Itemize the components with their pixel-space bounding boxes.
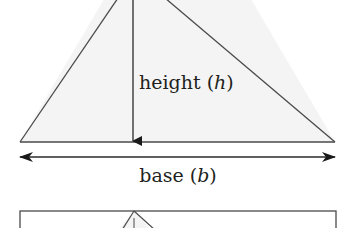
base-variable: b xyxy=(197,164,209,186)
height-variable: h xyxy=(214,71,226,93)
triangle-diagram: height (h) base (b) xyxy=(0,0,345,228)
diagram-canvas: height (h) base (b) xyxy=(0,0,345,228)
height-label: height (h) xyxy=(139,71,234,93)
second-figure-rectangle xyxy=(20,211,336,228)
base-label: base (b) xyxy=(139,164,217,186)
